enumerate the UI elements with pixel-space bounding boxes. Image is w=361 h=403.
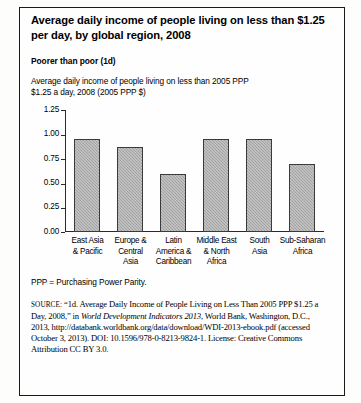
figure-description-line1: Average daily income of people living on… [31, 76, 321, 87]
bar-slot [109, 110, 152, 232]
bar [289, 164, 315, 232]
x-axis-label-line: Sub-Saharan [276, 236, 330, 246]
y-tick-mark [61, 232, 65, 233]
bar-slot [195, 110, 238, 232]
y-tick: 0.00 [31, 232, 65, 233]
x-axis-label-line: Africa [190, 257, 244, 267]
bar-chart: 0.000.250.500.751.001.25 East Asia& Paci… [31, 106, 331, 276]
bar-series [66, 110, 324, 232]
y-tick-label: 0.75 [44, 154, 59, 164]
bar [74, 139, 100, 233]
y-tick: 0.50 [31, 184, 65, 185]
source-publication-title: World Development Indicators 2013 [81, 311, 201, 321]
figure-description-line2: $1.25 a day, 2008 (2005 PPP $) [31, 87, 321, 98]
y-tick-label: 1.25 [44, 105, 59, 115]
source-note: SOURCE: “1d. Average Daily Income of Peo… [31, 299, 323, 355]
bar [117, 147, 143, 233]
figure-description: Average daily income of people living on… [31, 76, 321, 97]
bar [246, 139, 272, 233]
y-tick-label: 1.00 [44, 129, 59, 139]
bar [160, 174, 186, 233]
source-keyword: SOURCE: [31, 301, 62, 309]
y-tick-mark [61, 208, 65, 209]
x-axis-label-line: Africa [276, 247, 330, 257]
y-tick-mark [61, 110, 65, 111]
y-tick-mark [61, 159, 65, 160]
figure-subhead: Poorer than poor (1d) [31, 56, 335, 66]
bar-slot [66, 110, 109, 232]
x-axis-label: Sub-SaharanAfrica [276, 236, 330, 257]
figure-content: Average daily income of people living on… [31, 13, 335, 393]
y-tick-mark [61, 135, 65, 136]
y-tick: 1.00 [31, 135, 65, 136]
y-tick-label: 0.50 [44, 178, 59, 188]
y-tick-label: 0.25 [44, 202, 59, 212]
bar-slot [152, 110, 195, 232]
y-tick-mark [61, 184, 65, 185]
ppp-note: PPP = Purchasing Power Parity. [31, 277, 335, 287]
bar-slot [281, 110, 324, 232]
y-tick: 1.25 [31, 110, 65, 111]
figure-page: Average daily income of people living on… [0, 0, 361, 403]
bar-slot [238, 110, 281, 232]
page-title: Average daily income of people living on… [31, 13, 331, 42]
y-tick: 0.25 [31, 208, 65, 209]
y-tick-label: 0.00 [44, 227, 59, 237]
y-tick: 0.75 [31, 159, 65, 160]
bar [203, 139, 229, 233]
